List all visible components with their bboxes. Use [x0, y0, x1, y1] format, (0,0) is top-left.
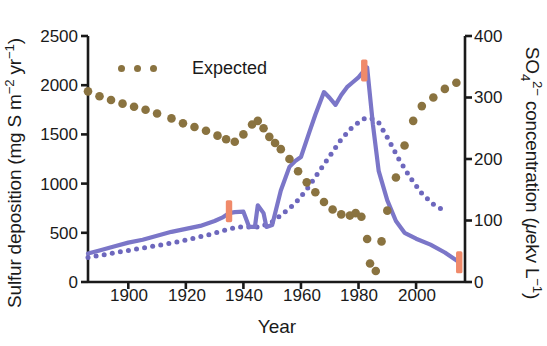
- expected-dot: [222, 135, 231, 144]
- expected-dot: [409, 117, 418, 126]
- expected-dot: [213, 131, 222, 140]
- expected-dot: [400, 141, 409, 150]
- modelled-dot: [425, 196, 430, 201]
- modelled-dot: [362, 116, 367, 121]
- modelled-dot: [238, 224, 243, 229]
- expected-dot: [371, 267, 380, 276]
- expected-dot: [285, 155, 294, 164]
- expected-dot: [429, 93, 438, 102]
- modelled-dot: [230, 226, 235, 231]
- modelled-dot: [222, 228, 227, 233]
- plot-area: [0, 0, 547, 346]
- modelled-dot: [134, 247, 139, 252]
- expected-dot: [202, 126, 211, 135]
- modelled-dot: [349, 126, 354, 131]
- modelled-dot: [338, 138, 343, 143]
- highlight-marker: [456, 251, 462, 273]
- expected-dot: [337, 210, 346, 219]
- modelled-dot: [401, 163, 406, 168]
- modelled-dot: [315, 172, 320, 177]
- modelled-dot: [110, 251, 115, 256]
- highlight-marker: [226, 200, 232, 222]
- modelled-dot: [333, 145, 338, 150]
- expected-dot: [294, 167, 303, 176]
- modelled-dot: [389, 142, 394, 147]
- modelled-dot: [328, 152, 333, 157]
- modelled-dot: [276, 214, 281, 219]
- modelled-dot: [419, 191, 424, 196]
- modelled-dot: [355, 121, 360, 126]
- expected-dot: [84, 87, 93, 96]
- modelled-dot: [376, 121, 381, 126]
- modelled-dot: [214, 230, 219, 235]
- expected-dot: [452, 78, 461, 87]
- modelled-dot: [283, 209, 288, 214]
- modelled-dot: [182, 238, 187, 243]
- expected-dot: [441, 85, 450, 94]
- expected-dot: [302, 178, 311, 187]
- modelled-dot: [102, 252, 107, 257]
- expected-dot: [277, 145, 286, 154]
- expected-dot: [377, 237, 386, 246]
- expected-dot: [141, 106, 150, 115]
- expected-dot: [418, 102, 427, 111]
- modelled-dot: [289, 204, 294, 209]
- modelled-dot: [126, 248, 131, 253]
- expected-dot: [239, 130, 248, 139]
- modelled-dot: [94, 254, 99, 259]
- sulfur-deposition-chart: Sulfur deposition (mg S m−2 yr−1) SO42− …: [0, 0, 547, 346]
- modelled-dot: [414, 184, 419, 189]
- expected-dot: [230, 137, 239, 146]
- modelled-dot: [324, 159, 329, 164]
- modelled-dot: [392, 149, 397, 154]
- modelled-dot: [431, 202, 436, 207]
- modelled-dot: [86, 255, 91, 260]
- modelled-dot: [385, 135, 390, 140]
- expected-dot: [107, 96, 116, 105]
- modelled-dot: [319, 165, 324, 170]
- expected-dot: [130, 102, 139, 111]
- modelled-dot: [174, 240, 179, 245]
- series-expected-so4: [84, 78, 461, 275]
- expected-dot: [259, 124, 268, 133]
- modelled-dot: [190, 236, 195, 241]
- expected-dot: [95, 92, 104, 101]
- modelled-dot: [300, 192, 305, 197]
- modelled-dot: [409, 177, 414, 182]
- expected-dot: [383, 206, 392, 215]
- expected-dot: [392, 173, 401, 182]
- axis-spines: [88, 36, 465, 282]
- modelled-dot: [295, 198, 300, 203]
- axis-tick-marks: [81, 36, 472, 289]
- modelled-dot: [142, 245, 147, 250]
- modelled-dot: [150, 244, 155, 249]
- expected-dot: [118, 99, 127, 108]
- expected-dot: [328, 205, 337, 214]
- expected-dot: [311, 188, 320, 197]
- expected-dot: [357, 213, 366, 222]
- expected-dot: [179, 119, 188, 128]
- expected-dot: [167, 114, 176, 123]
- modelled-dot: [396, 156, 401, 161]
- expected-dot: [320, 198, 329, 207]
- highlight-marker: [361, 59, 367, 81]
- modelled-dot: [343, 132, 348, 137]
- modelled-dot: [381, 128, 386, 133]
- modelled-dot: [158, 242, 163, 247]
- modelled-dot: [405, 170, 410, 175]
- expected-dot: [153, 109, 162, 118]
- expected-dot: [363, 235, 372, 244]
- expected-dot: [366, 259, 375, 268]
- expected-dot: [253, 117, 262, 126]
- modelled-dot: [438, 206, 443, 211]
- modelled-dot: [166, 241, 171, 246]
- expected-dot: [190, 123, 199, 132]
- modelled-dot: [206, 232, 211, 237]
- modelled-dot: [118, 249, 123, 254]
- modelled-dot: [198, 234, 203, 239]
